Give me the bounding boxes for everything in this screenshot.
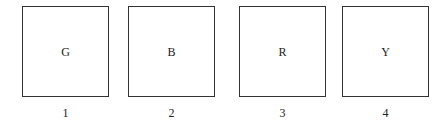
box-2: B xyxy=(128,6,215,97)
box-number: 4 xyxy=(342,106,429,121)
box-3: R xyxy=(239,6,326,97)
box-number: 1 xyxy=(22,106,109,121)
box-4: Y xyxy=(342,6,429,97)
box-letter: G xyxy=(23,44,108,59)
box-letter: Y xyxy=(343,44,428,59)
box-number: 3 xyxy=(239,106,326,121)
box-number: 2 xyxy=(128,106,215,121)
box-1: G xyxy=(22,6,109,97)
box-letter: R xyxy=(240,44,325,59)
box-letter: B xyxy=(129,44,214,59)
